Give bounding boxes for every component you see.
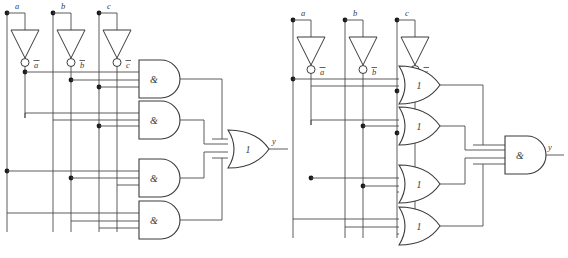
input-label-a: a — [301, 8, 305, 18]
or-gate-symbol: 1 — [417, 179, 422, 190]
logic-diagram-svg: a b c a b c — [0, 0, 568, 258]
input-label-a: a — [15, 1, 19, 11]
or-gate-3: 1 — [311, 158, 473, 203]
or-gate-symbol: 1 — [246, 144, 251, 155]
or-gate-4: 1 — [293, 164, 483, 245]
and-gate-symbol: & — [150, 74, 158, 85]
left-circuit: a b c a b c — [5, 1, 288, 239]
svg-text:a: a — [320, 67, 324, 77]
circuit-diagram-canvas: a b c a b c — [0, 0, 568, 258]
and-gate-4: & — [7, 158, 222, 239]
svg-text:b: b — [80, 60, 84, 70]
svg-text:c: c — [126, 60, 130, 70]
input-label-c: c — [405, 8, 409, 18]
inverter-output-label-a-bar: a — [320, 67, 326, 77]
and-gate-symbol: & — [150, 115, 158, 126]
inverter-output-label-c-bar: c — [126, 60, 132, 70]
or-gate-1: 1 — [293, 66, 483, 145]
and-gate-output: & y — [473, 136, 564, 174]
input-label-c: c — [107, 1, 111, 11]
inverter-output-label-b-bar: b — [372, 67, 378, 77]
left-inverted-rails — [5, 67, 117, 233]
inverter-output-label-a-bar: a — [34, 60, 40, 70]
or-gate-2: 1 — [311, 107, 473, 150]
output-label-y: y — [271, 136, 276, 146]
input-label-b: b — [61, 1, 65, 11]
or-gate-symbol: 1 — [417, 121, 422, 132]
and-gate-symbol: & — [150, 173, 158, 184]
svg-text:b: b — [372, 67, 376, 77]
right-circuit: a b c a b c — [291, 8, 564, 245]
svg-text:a: a — [34, 60, 38, 70]
or-gate-symbol: 1 — [417, 80, 422, 91]
and-gate-symbol: & — [516, 150, 524, 161]
or-gate-output: 1 y — [212, 130, 288, 168]
inverter-output-label-b-bar: b — [80, 60, 86, 70]
and-gate-1: & — [25, 60, 222, 139]
and-gate-3: & — [7, 152, 212, 197]
right-inverted-rails — [291, 74, 415, 239]
and-gate-symbol: & — [150, 215, 158, 226]
output-label-y: y — [547, 142, 552, 152]
or-gate-symbol: 1 — [417, 221, 422, 232]
input-label-b: b — [353, 8, 357, 18]
